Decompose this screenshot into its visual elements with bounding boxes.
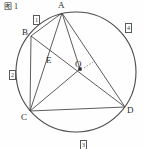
arc-label-2-wrap: 2 xyxy=(9,64,16,80)
arc-label-4-wrap: 4 xyxy=(125,17,132,33)
figure-canvas xyxy=(0,0,145,149)
vertex-label-c: C xyxy=(21,113,27,122)
vertex-label-o: O xyxy=(75,60,82,69)
segment-BD xyxy=(31,36,125,107)
segment-BC xyxy=(30,36,31,111)
vertex-label-b: B xyxy=(22,28,28,37)
vertex-label-e: E xyxy=(46,56,52,65)
arc-label-1: 1 xyxy=(33,15,40,25)
vertex-label-a: A xyxy=(58,1,65,10)
center-marker-tick xyxy=(84,62,93,68)
arc-label-1-wrap: 1 xyxy=(33,9,40,25)
arc-label-3-wrap: 3 xyxy=(80,134,87,149)
segment-CO xyxy=(30,69,80,111)
arc-label-2: 2 xyxy=(9,70,16,80)
arc-label-4: 4 xyxy=(125,23,132,33)
vertex-label-d: D xyxy=(127,106,134,115)
figure-caption: 图 1 xyxy=(4,3,18,11)
segment-CD xyxy=(30,107,125,111)
arc-label-3: 3 xyxy=(80,140,87,149)
geometry-figure: 图 1 A B C D E O 1 2 3 4 xyxy=(0,0,145,149)
